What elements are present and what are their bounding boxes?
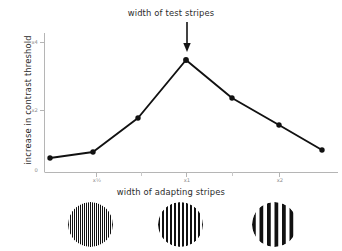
data-point <box>276 122 281 127</box>
data-point <box>135 115 140 120</box>
x-tick-label-x1: x1 <box>177 177 197 183</box>
fine-stripes-disc <box>68 202 113 247</box>
data-point <box>229 95 234 100</box>
coarse-stripes-disc <box>252 202 297 247</box>
data-point <box>90 149 95 154</box>
medium-stripes-disc <box>158 202 203 247</box>
data-line <box>50 60 322 158</box>
x-axis-title: width of adapting stripes <box>0 187 342 197</box>
data-point <box>183 57 189 63</box>
y-axis-title: increase in contrast threshold <box>23 20 33 180</box>
data-point <box>319 147 324 152</box>
line-chart <box>0 0 342 182</box>
x-tick-label-x2: x2 <box>270 177 290 183</box>
x-tick-label-half: x½ <box>87 177 107 183</box>
data-point <box>47 155 52 160</box>
figure-root: width of test stripes <box>0 0 342 251</box>
